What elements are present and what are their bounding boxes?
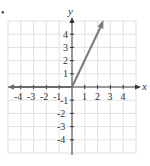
svg-text:2: 2	[63, 55, 68, 66]
svg-text:4: 4	[63, 29, 68, 40]
svg-text:1: 1	[82, 91, 87, 102]
svg-text:4: 4	[121, 91, 126, 102]
svg-text:-2: -2	[40, 91, 48, 102]
y-axis-label: y	[67, 5, 73, 17]
svg-text:-1: -1	[60, 95, 68, 106]
left-arrow-icon	[8, 84, 14, 90]
svg-text:-4: -4	[14, 91, 22, 102]
x-axis-label: x	[141, 80, 147, 92]
svg-text:-3: -3	[27, 91, 35, 102]
svg-text:-2: -2	[57, 108, 65, 119]
svg-text:3: 3	[108, 91, 113, 102]
graph: •	[0, 0, 150, 166]
svg-text:3: 3	[63, 42, 68, 53]
svg-text:2: 2	[95, 91, 100, 102]
x-axis-arrow-icon	[135, 85, 141, 90]
series-left-ray	[8, 84, 72, 90]
y-axis-arrow-icon	[70, 17, 75, 23]
svg-text:-4: -4	[57, 134, 65, 145]
exercise-marker: •	[1, 7, 5, 18]
series-right-ray	[72, 20, 104, 87]
svg-text:-3: -3	[57, 121, 65, 132]
svg-text:1: 1	[63, 68, 68, 79]
